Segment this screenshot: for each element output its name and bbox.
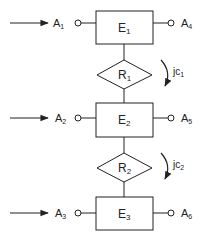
curved-arrow-icon xyxy=(161,153,168,179)
port-circle-icon xyxy=(75,115,81,121)
input-label: A1 xyxy=(53,17,64,30)
port-circle-icon xyxy=(75,210,81,216)
row-3: A3 E3 A6 xyxy=(10,197,192,230)
output-label: A4 xyxy=(181,17,192,30)
port-circle-icon xyxy=(168,20,174,26)
svg-text:jc2: jc2 xyxy=(172,159,184,171)
relationship-1: R1 jc1 xyxy=(97,60,184,89)
svg-text:A3: A3 xyxy=(55,207,66,220)
diagram: A1 E1 A4 R1 jc1 A2 E2 A5 R2 jc2 A3 xyxy=(0,0,204,243)
svg-text:A5: A5 xyxy=(181,112,192,125)
port-circle-icon xyxy=(168,115,174,121)
port-circle-icon xyxy=(168,210,174,216)
row-2: A2 E2 A5 xyxy=(10,103,192,137)
curved-arrow-icon xyxy=(161,60,168,86)
svg-text:A2: A2 xyxy=(55,112,66,125)
svg-text:jc1: jc1 xyxy=(172,66,184,78)
port-circle-icon xyxy=(75,20,81,26)
svg-text:A6: A6 xyxy=(181,207,192,220)
relationship-2: R2 jc2 xyxy=(97,153,184,182)
row-1: A1 E1 A4 xyxy=(10,11,192,44)
